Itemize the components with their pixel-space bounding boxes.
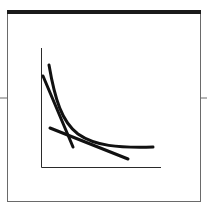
diagram-canvas: [0, 0, 207, 215]
diagram-frame: [8, 11, 201, 202]
frame-top-bar: [7, 10, 201, 14]
shallow-line: [50, 128, 128, 159]
